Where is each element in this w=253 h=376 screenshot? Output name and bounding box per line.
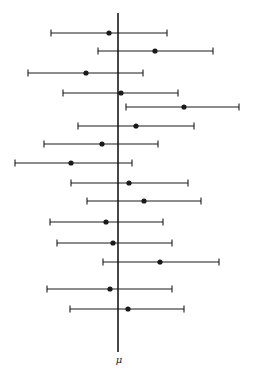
confidence-interval — [71, 180, 188, 187]
confidence-interval — [47, 286, 172, 293]
point-estimate-dot — [126, 180, 131, 185]
point-estimate-dot — [125, 306, 130, 311]
point-estimate-dot — [103, 219, 108, 224]
confidence-interval-diagram — [0, 0, 253, 376]
interval-group — [15, 30, 239, 313]
confidence-interval — [57, 240, 172, 247]
point-estimate-dot — [157, 259, 162, 264]
confidence-interval — [70, 306, 184, 313]
point-estimate-dot — [68, 160, 73, 165]
point-estimate-dot — [181, 104, 186, 109]
confidence-interval — [126, 104, 239, 111]
confidence-interval — [103, 259, 219, 266]
confidence-interval — [28, 70, 143, 77]
confidence-interval — [44, 141, 158, 148]
confidence-interval — [15, 160, 132, 167]
point-estimate-dot — [83, 70, 88, 75]
point-estimate-dot — [152, 48, 157, 53]
confidence-interval — [50, 219, 163, 226]
point-estimate-dot — [110, 240, 115, 245]
confidence-interval — [63, 90, 178, 97]
point-estimate-dot — [118, 90, 123, 95]
mu-axis-label: μ — [116, 354, 123, 365]
point-estimate-dot — [99, 141, 104, 146]
point-estimate-dot — [141, 198, 146, 203]
point-estimate-dot — [107, 286, 112, 291]
confidence-interval — [78, 123, 194, 130]
confidence-interval — [87, 198, 201, 205]
point-estimate-dot — [106, 30, 111, 35]
confidence-interval — [98, 48, 213, 55]
confidence-interval — [51, 30, 167, 37]
point-estimate-dot — [133, 123, 138, 128]
